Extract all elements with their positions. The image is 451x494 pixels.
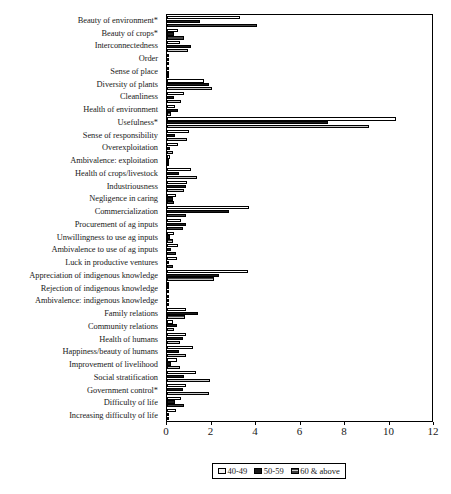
bar-1 (167, 172, 179, 175)
bar-0 (167, 384, 186, 387)
bar-2 (167, 201, 174, 204)
bar-0 (167, 219, 181, 222)
bar-0 (167, 371, 196, 374)
bar-2 (167, 214, 186, 217)
category-label: Cleanliness (0, 91, 162, 104)
bar-group (167, 155, 432, 168)
bar-1 (167, 375, 184, 378)
bar-0 (167, 206, 249, 209)
bar-group (167, 15, 432, 28)
bar-0 (167, 67, 169, 70)
legend-entry: 40-49 (218, 466, 247, 476)
bar-1 (167, 388, 183, 391)
legend-label: 50-59 (264, 466, 284, 476)
bar-group (167, 231, 432, 244)
bar-1 (167, 32, 174, 35)
legend-label: 60 & above (300, 466, 340, 476)
bar-0 (167, 194, 176, 197)
legend-label: 40-49 (228, 466, 248, 476)
bar-2 (167, 417, 169, 420)
bar-0 (167, 282, 169, 285)
bar-group (167, 281, 432, 294)
bar-0 (167, 143, 178, 146)
bar-0 (167, 346, 193, 349)
bar-1 (167, 134, 175, 137)
bar-1 (167, 159, 169, 162)
category-label: Overexploitation (0, 142, 162, 155)
category-label: Appreciation of indigenous knowledge (0, 269, 162, 282)
bar-2 (167, 189, 184, 192)
bar-group (167, 218, 432, 231)
category-label: Diversity of plants (0, 78, 162, 91)
bar-chart: Beauty of environment*Beauty of crops*In… (0, 0, 451, 494)
bar-1 (167, 20, 200, 23)
bar-2 (167, 315, 185, 318)
legend-swatch-icon (254, 468, 262, 474)
bar-2 (167, 74, 169, 77)
bar-1 (167, 274, 219, 277)
bar-group (167, 345, 432, 358)
legend-entry: 60 & above (291, 466, 340, 476)
bar-2 (167, 239, 173, 242)
x-tick-label: 2 (208, 425, 214, 438)
bar-group (167, 269, 432, 282)
bar-0 (167, 41, 180, 44)
bar-2 (167, 100, 181, 103)
category-label: Rejection of indigenous knowledge (0, 282, 162, 295)
bar-group (167, 91, 432, 104)
bar-2 (167, 62, 169, 65)
bar-0 (167, 168, 191, 171)
category-label: Commercialization (0, 205, 162, 218)
bar-2 (167, 36, 184, 39)
bar-1 (167, 45, 191, 48)
bar-0 (167, 117, 396, 120)
bar-group (167, 256, 432, 269)
bar-0 (167, 320, 173, 323)
bar-1 (167, 83, 209, 86)
category-label: Ambivalence: exploitation (0, 154, 162, 167)
category-label: Health of humans (0, 333, 162, 346)
category-label: Health of environment (0, 103, 162, 116)
bar-group (167, 396, 432, 409)
bar-2 (167, 379, 210, 382)
bar-2 (167, 366, 180, 369)
bar-0 (167, 105, 175, 108)
bar-0 (167, 308, 186, 311)
bar-2 (167, 138, 187, 141)
bar-0 (167, 29, 178, 32)
bar-group (167, 129, 432, 142)
bar-1 (167, 299, 169, 302)
bar-1 (167, 147, 170, 150)
bar-1 (167, 337, 183, 340)
bar-group (167, 294, 432, 307)
bar-2 (167, 341, 180, 344)
bar-0 (167, 397, 181, 400)
legend-entry: 50-59 (254, 466, 283, 476)
bar-2 (167, 176, 197, 179)
bars-container (167, 15, 432, 421)
legend-swatch-icon (218, 468, 226, 474)
bar-group (167, 370, 432, 383)
bar-2 (167, 303, 169, 306)
category-label: Ambivalence to use of ag inputs (0, 244, 162, 257)
bar-0 (167, 155, 170, 158)
bar-group (167, 408, 432, 421)
bar-group (167, 66, 432, 79)
bar-group (167, 104, 432, 117)
bar-1 (167, 223, 186, 226)
x-tick-label: 6 (297, 425, 303, 438)
chart-legend: 40-4950-5960 & above (212, 463, 346, 479)
category-label: Social stratification (0, 371, 162, 384)
category-label: Government control* (0, 384, 162, 397)
bar-group (167, 383, 432, 396)
bar-group (167, 78, 432, 91)
category-label: Industriousness (0, 180, 162, 193)
bar-group (167, 358, 432, 371)
category-label: Improvement of livelihood (0, 358, 162, 371)
category-label: Ambivalence: indigenous knowledge (0, 295, 162, 308)
bar-group (167, 53, 432, 66)
x-tick-label: 4 (252, 425, 258, 438)
category-label: Family relations (0, 307, 162, 320)
x-axis: 024681012 (166, 422, 433, 440)
bar-2 (167, 265, 173, 268)
